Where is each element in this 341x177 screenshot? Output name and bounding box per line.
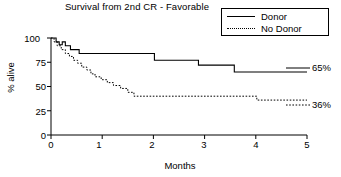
series-lines xyxy=(51,38,307,100)
series-line-donor xyxy=(51,38,307,72)
end-label-connectors xyxy=(286,68,310,105)
series-line-no-donor xyxy=(51,38,307,100)
axis-lines xyxy=(51,38,307,135)
plot-area xyxy=(0,0,341,177)
survival-chart: Survival from 2nd CR - Favorable Donor N… xyxy=(0,0,341,177)
